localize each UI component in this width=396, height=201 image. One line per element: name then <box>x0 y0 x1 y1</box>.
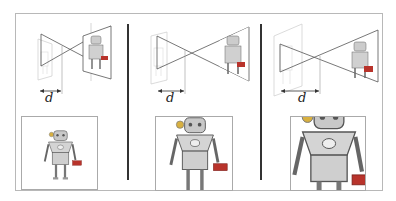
projection-diagram-1 <box>16 14 126 114</box>
panel-2: d <box>129 14 260 192</box>
panel-3: d <box>262 14 384 192</box>
projection-diagram-3 <box>262 14 384 114</box>
distance-label-d: d <box>298 90 306 105</box>
figure-container: d <box>15 13 383 191</box>
robot-thumbnail-icon <box>352 42 373 78</box>
rendered-frame-2 <box>155 116 233 191</box>
rendered-frame-1 <box>21 116 98 190</box>
projection-diagram-2 <box>129 14 260 114</box>
robot-image <box>291 117 366 191</box>
rendered-frame-3 <box>290 116 366 191</box>
distance-label-d: d <box>45 90 53 105</box>
distance-label-d: d <box>166 90 174 105</box>
panel-1: d <box>16 14 126 192</box>
robot-image <box>22 117 98 190</box>
robot-image <box>156 117 233 191</box>
